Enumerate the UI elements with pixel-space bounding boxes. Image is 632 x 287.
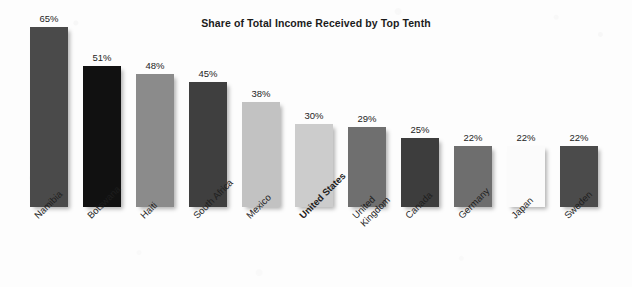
bar: [136, 74, 174, 207]
bar-value-label: 22%: [569, 132, 588, 143]
bar-group: 30%: [295, 0, 333, 207]
bar-value-label: 22%: [516, 132, 535, 143]
bar-value-label: 48%: [145, 60, 164, 71]
bar-value-label: 22%: [463, 132, 482, 143]
bar-value-label: 51%: [92, 52, 111, 63]
bar-value-label: 45%: [198, 68, 217, 79]
bar-value-label: 30%: [304, 110, 323, 121]
chart-page: Share of Total Income Received by Top Te…: [0, 0, 632, 287]
bar-value-label: 25%: [410, 124, 429, 135]
bar-group: 22%: [454, 0, 492, 207]
bar-group: 45%: [189, 0, 227, 207]
bar-value-label: 65%: [39, 13, 58, 24]
bar: [30, 27, 68, 207]
bar-value-label: 29%: [357, 113, 376, 124]
bar-group: 48%: [136, 0, 174, 207]
bar-group: 22%: [560, 0, 598, 207]
bar: [242, 102, 280, 207]
bar-group: 38%: [242, 0, 280, 207]
bar-group: 65%: [30, 0, 68, 207]
plot-area: 65%51%48%45%38%30%29%25%22%22%22%: [0, 0, 632, 207]
bar-group: 22%: [507, 0, 545, 207]
bar-group: 29%: [348, 0, 386, 207]
bar-group: 25%: [401, 0, 439, 207]
bar-value-label: 38%: [251, 88, 270, 99]
category-axis: NamibiaBotswanaHaitiSouth AfricaMexicoUn…: [0, 207, 632, 287]
bar-group: 51%: [83, 0, 121, 207]
